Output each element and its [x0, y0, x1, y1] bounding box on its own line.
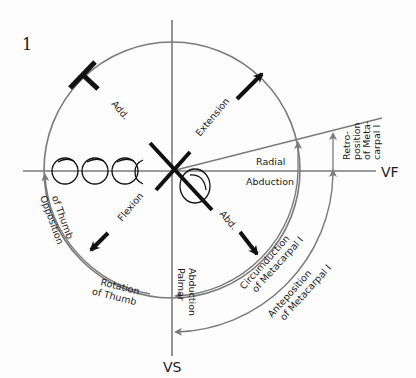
add-label: Add.: [109, 98, 131, 121]
flexion-arrow: [91, 233, 108, 250]
opposition-label: Opposition of Thumb: [38, 190, 76, 246]
flexion-label: Flexion: [115, 190, 145, 223]
palmar-abduction-label: Palmar Abduction: [176, 268, 198, 316]
svg-text:Palmar: Palmar: [176, 268, 187, 301]
vf-label: VF: [381, 164, 399, 180]
svg-text:carpal I: carpal I: [371, 125, 382, 160]
add-stop-stem: [83, 75, 98, 89]
thumb-motion-diagram: 1 VF VS Radial Abduction Retro- position…: [0, 0, 416, 378]
abduction-label: Abduction: [246, 176, 294, 187]
rotation-label: Rotation of Thumb: [91, 275, 141, 307]
abd-arrow: [240, 232, 257, 254]
abd-label: Abd.: [217, 208, 239, 232]
extension-label: Extension: [193, 95, 231, 138]
figure-number: 1: [22, 35, 32, 54]
radial-label: Radial: [256, 156, 285, 167]
extension-arrow: [237, 74, 262, 99]
vs-label: VS: [163, 359, 182, 375]
svg-text:Abduction: Abduction: [187, 268, 198, 316]
